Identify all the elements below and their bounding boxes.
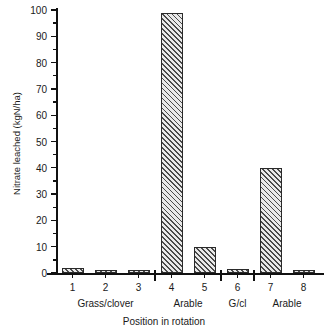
plot-area bbox=[56, 10, 320, 273]
y-tick-label: 60 bbox=[36, 110, 47, 121]
group-label: Grass/clover bbox=[77, 298, 133, 309]
y-tick-label: 90 bbox=[36, 31, 47, 42]
x-tick bbox=[303, 273, 304, 278]
x-tick-label: 1 bbox=[70, 282, 76, 293]
x-axis-label: Position in rotation bbox=[0, 316, 328, 327]
x-tick-label: 6 bbox=[235, 282, 241, 293]
y-tick-label: 70 bbox=[36, 83, 47, 94]
bar-chart-figure: Nitrate leached (kgN/ha) 010203040506070… bbox=[0, 0, 328, 331]
x-tick bbox=[171, 273, 172, 278]
x-tick bbox=[105, 273, 106, 278]
x-tick-label: 2 bbox=[103, 282, 109, 293]
x-tick-label: 5 bbox=[202, 282, 208, 293]
x-tick-label: 8 bbox=[301, 282, 307, 293]
x-tick bbox=[270, 273, 271, 278]
bar bbox=[161, 13, 183, 273]
y-tick-label: 40 bbox=[36, 162, 47, 173]
group-separator bbox=[154, 270, 156, 281]
y-tick-label: 20 bbox=[36, 215, 47, 226]
x-tick bbox=[72, 273, 73, 278]
y-tick-label: 0 bbox=[41, 268, 47, 279]
x-tick-label: 4 bbox=[169, 282, 175, 293]
y-tick-label: 30 bbox=[36, 189, 47, 200]
y-tick-label: 100 bbox=[30, 5, 47, 16]
x-tick-label: 3 bbox=[136, 282, 142, 293]
x-tick bbox=[237, 273, 238, 278]
x-axis-line bbox=[47, 273, 324, 275]
group-separator bbox=[253, 270, 255, 281]
x-tick-label: 7 bbox=[268, 282, 274, 293]
y-tick-label: 80 bbox=[36, 57, 47, 68]
y-axis-label: Nitrate leached (kgN/ha) bbox=[11, 44, 22, 244]
bar bbox=[260, 168, 282, 273]
x-tick bbox=[204, 273, 205, 278]
y-tick-label: 10 bbox=[36, 241, 47, 252]
bar bbox=[194, 247, 216, 273]
group-label: G/cl bbox=[229, 298, 247, 309]
group-label: Arable bbox=[273, 298, 302, 309]
x-tick bbox=[138, 273, 139, 278]
group-label: Arable bbox=[174, 298, 203, 309]
group-separator bbox=[220, 270, 222, 281]
y-tick-label: 50 bbox=[36, 136, 47, 147]
